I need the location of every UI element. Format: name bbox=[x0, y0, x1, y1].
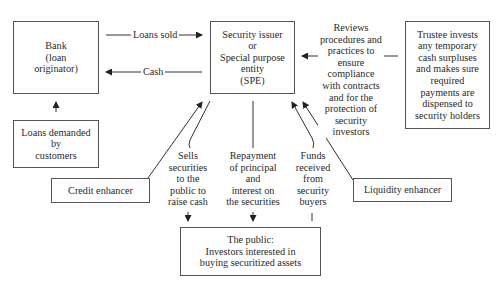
repayment-line-text: of principal bbox=[221, 162, 285, 174]
reviews-line: ensure bbox=[318, 57, 384, 69]
sells-line-text: securities bbox=[162, 162, 214, 174]
loans-demanded-line: Loans demanded bbox=[21, 127, 90, 139]
sells-label: Sells securities to the public to raise … bbox=[162, 150, 214, 208]
credit-enhancer-label: Credit enhancer bbox=[68, 185, 133, 197]
reviews-line: compliance bbox=[318, 68, 384, 80]
loans-demanded-box: Loans demanded by customers bbox=[13, 120, 99, 168]
spe-line: or bbox=[248, 40, 257, 52]
trustee-line: and makes sure bbox=[416, 63, 479, 75]
public-line: buying securitized assets bbox=[200, 257, 301, 269]
bank-box: Bank (loan originator) bbox=[13, 21, 99, 94]
reviews-line: protection of bbox=[318, 103, 384, 115]
trustee-line: payments are bbox=[420, 87, 474, 99]
trustee-line: required bbox=[431, 75, 465, 87]
public-box: The public: Investors interested in buyi… bbox=[180, 227, 321, 276]
funds-line-text: from bbox=[293, 173, 333, 185]
bank-line: Bank bbox=[45, 40, 67, 52]
repayment-line-text: and bbox=[221, 173, 285, 185]
public-line: The public: bbox=[227, 234, 274, 246]
reviews-line: Reviews bbox=[318, 22, 384, 34]
trustee-line: cash surpluses bbox=[418, 52, 477, 64]
funds-arrow bbox=[292, 102, 314, 148]
spe-line: Special purpose bbox=[220, 52, 285, 64]
sells-line-text: public to bbox=[162, 185, 214, 197]
funds-label: Funds received from security buyers bbox=[293, 150, 333, 208]
repayment-line-text: Repayment bbox=[221, 150, 285, 162]
loans-demanded-line: by bbox=[51, 138, 61, 150]
sells-line-text: to the bbox=[162, 173, 214, 185]
reviews-line: security bbox=[318, 115, 384, 127]
spe-line: (SPE) bbox=[240, 75, 264, 87]
cash-label: Cash bbox=[141, 66, 165, 78]
trustee-line: dispensed to bbox=[422, 98, 473, 110]
loans-demanded-line: customers bbox=[35, 150, 76, 162]
liquidity-enhancer-box: Liquidity enhancer bbox=[353, 178, 452, 202]
reviews-label: Reviews procedures and practices to ensu… bbox=[318, 22, 384, 138]
funds-line-text: security bbox=[293, 185, 333, 197]
reviews-line: practices to bbox=[318, 45, 384, 57]
reviews-line: and for the bbox=[318, 92, 384, 104]
spe-line: Security issuer bbox=[222, 29, 282, 41]
credit-enhancer-box: Credit enhancer bbox=[51, 178, 150, 203]
trustee-line: security holders bbox=[415, 110, 480, 122]
funds-line-text: received bbox=[293, 162, 333, 174]
reviews-line: procedures and bbox=[318, 34, 384, 46]
trustee-box: Trustee invests any temporary cash surpl… bbox=[405, 21, 490, 129]
reviews-line: investors bbox=[318, 126, 384, 138]
funds-line-text: Funds bbox=[293, 150, 333, 162]
trustee-line: any temporary bbox=[418, 40, 477, 52]
repayment-line-text: interest on bbox=[221, 185, 285, 197]
funds-line-text: buyers bbox=[293, 196, 333, 208]
trustee-line: Trustee invests bbox=[417, 29, 478, 41]
spe-box: Security issuer or Special purpose entit… bbox=[210, 21, 295, 94]
sells-line bbox=[189, 101, 210, 148]
bank-line: originator) bbox=[34, 63, 78, 75]
spe-line: entity bbox=[241, 63, 264, 75]
loans-sold-label: Loans sold bbox=[131, 29, 179, 41]
reviews-line: with contracts bbox=[318, 80, 384, 92]
sells-line-text: Sells bbox=[162, 150, 214, 162]
repayment-line-text: the securities bbox=[221, 196, 285, 208]
liquidity-enhancer-label: Liquidity enhancer bbox=[364, 184, 441, 196]
repayment-label: Repayment of principal and interest on t… bbox=[221, 150, 285, 208]
public-line: Investors interested in bbox=[206, 246, 296, 258]
bank-line: (loan bbox=[46, 52, 67, 64]
sells-line-text: raise cash bbox=[162, 196, 214, 208]
